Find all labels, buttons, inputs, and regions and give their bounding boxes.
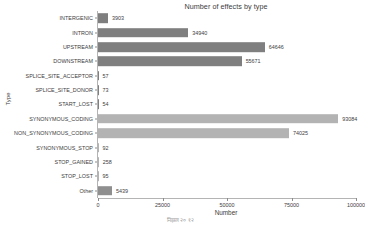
category-row: SPLICE_SITE_ACCEPTOR57 [98, 69, 356, 83]
footer-note: निझल २० १२ [0, 216, 361, 224]
category-row: INTERGENIC3903 [98, 11, 356, 25]
x-axis-tick-mark [356, 198, 357, 201]
x-axis-tick-label: 50000 [220, 202, 235, 208]
bar-value-label: 34940 [188, 30, 207, 36]
bar-value-label: 55671 [242, 58, 261, 64]
y-axis-tick-mark [95, 90, 98, 91]
category-row: START_LOST54 [98, 97, 356, 111]
bar-value-label: 64646 [265, 44, 284, 50]
bar [98, 28, 188, 38]
x-axis-tick-mark [227, 198, 228, 201]
category-row: SPLICE_SITE_DONOR73 [98, 83, 356, 97]
bar [98, 186, 112, 196]
y-axis-tick-label: STOP_GAINED [55, 159, 93, 165]
bar-value-label: 73 [99, 87, 109, 93]
y-axis-tick-mark [95, 133, 98, 134]
y-axis-tick-mark [95, 147, 98, 148]
x-axis-tick-label: 0 [97, 202, 100, 208]
category-row: STOP_LOST95 [98, 169, 356, 183]
y-axis-tick-mark [95, 190, 98, 191]
y-axis-tick-label: UPSTREAM [63, 44, 93, 50]
x-axis-tick-label: 25000 [155, 202, 170, 208]
y-axis-tick-label: Other [79, 188, 93, 194]
category-row: NON_SYNONYMOUS_CODING74025 [98, 126, 356, 140]
y-axis-tick-mark [95, 162, 98, 163]
y-axis-tick-mark [95, 75, 98, 76]
bar-value-label: 92 [99, 145, 109, 151]
y-axis-tick-mark [95, 104, 98, 105]
bar-value-label: 5439 [112, 188, 128, 194]
bar [98, 57, 242, 67]
y-axis-tick-mark [95, 46, 98, 47]
y-axis-tick-label: SPLICE_SITE_ACCEPTOR [26, 73, 93, 79]
y-axis-tick-label: SPLICE_SITE_DONOR [35, 87, 93, 93]
category-row: DOWNSTREAM55671 [98, 54, 356, 68]
y-axis-tick-mark [95, 18, 98, 19]
y-axis-tick-label: INTRON [72, 30, 93, 36]
chart-title: Number of effects by type [97, 2, 355, 11]
bar [98, 42, 265, 52]
x-axis-tick-mark [292, 198, 293, 201]
x-axis-title: Number [97, 209, 355, 216]
bar-value-label: 93084 [338, 116, 357, 122]
category-row: STOP_GAINED258 [98, 155, 356, 169]
y-axis-tick-label: SYNONYMOUS_STOP [36, 145, 93, 151]
category-row: SYNONYMOUS_CODING93084 [98, 112, 356, 126]
x-axis-tick-mark [98, 198, 99, 201]
y-axis-tick-label: START_LOST [59, 101, 93, 107]
y-axis-tick-mark [95, 61, 98, 62]
y-axis-tick-mark [95, 118, 98, 119]
x-axis-tick-mark [163, 198, 164, 201]
category-row: Other5439 [98, 184, 356, 198]
x-axis-tick-label: 75000 [284, 202, 299, 208]
y-axis-tick-label: DOWNSTREAM [53, 58, 93, 64]
bar-value-label: 95 [99, 173, 109, 179]
y-axis-tick-mark [95, 32, 98, 33]
bar-value-label: 57 [99, 73, 109, 79]
category-row: UPSTREAM64646 [98, 40, 356, 54]
category-row: SYNONYMOUS_STOP92 [98, 140, 356, 154]
bar [98, 13, 108, 23]
bar [98, 128, 289, 138]
y-axis-tick-label: INTERGENIC [60, 15, 93, 21]
bar-value-label: 54 [99, 101, 109, 107]
category-row: INTRON34940 [98, 25, 356, 39]
y-axis-tick-mark [95, 176, 98, 177]
bar [98, 114, 338, 124]
y-axis-title: Type [5, 87, 11, 111]
bar-value-label: 258 [99, 159, 112, 165]
y-axis-tick-label: STOP_LOST [61, 173, 93, 179]
bar-value-label: 3903 [108, 15, 124, 21]
y-axis-tick-label: SYNONYMOUS_CODING [29, 116, 93, 122]
bar-value-label: 74025 [289, 130, 308, 136]
x-axis-tick-label: 100000 [347, 202, 365, 208]
y-axis-tick-label: NON_SYNONYMOUS_CODING [14, 130, 93, 136]
plot-area: INTERGENIC3903INTRON34940UPSTREAM64646DO… [97, 11, 356, 198]
